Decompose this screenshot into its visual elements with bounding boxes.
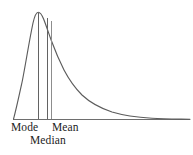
- mode-label: Mode: [11, 121, 38, 133]
- mean-label: Mean: [52, 121, 79, 133]
- distribution-figure: Mode Mean Median: [0, 0, 193, 155]
- density-curve: [14, 12, 191, 119]
- median-label: Median: [30, 134, 66, 146]
